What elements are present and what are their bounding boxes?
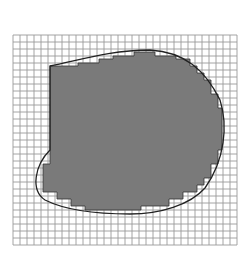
grid-area-diagram bbox=[0, 0, 252, 255]
shaded-staircase-region bbox=[43, 52, 222, 210]
